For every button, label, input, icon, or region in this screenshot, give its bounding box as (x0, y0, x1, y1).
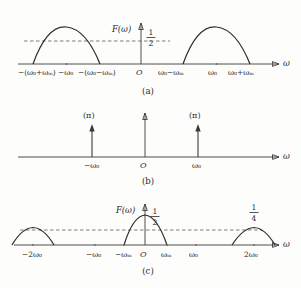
panel-a-amplitude-fraction: 1 2 (147, 28, 156, 48)
panel-c-function-label: F(ω) (115, 205, 135, 215)
panel-b-impulse-negative (89, 124, 94, 157)
panel-a-lobe-negative (33, 27, 100, 64)
panel-b-caption: (b) (142, 176, 154, 186)
panel-c-tick-neg-w0 (94, 244, 96, 246)
panel-b: (π) (π) −ω₀ O ω₀ ω (b) (0, 100, 301, 192)
panel-a-label-origin: O (136, 68, 143, 77)
panel-a-tick-neg-w0 (66, 63, 68, 65)
panel-c: F(ω) ω 1 2 1 4 −2ω₀ −ω₀ −ωₘ O ωₘ ω₀ 2ω₀ (0, 192, 301, 288)
panel-a-omega-axis-label: ω (283, 58, 290, 68)
panel-b-y-axis (143, 113, 148, 157)
panel-c-label-pos-w0: ω₀ (189, 250, 198, 259)
panel-b-weight-label-positive: (π) (189, 111, 201, 120)
panel-c-tick-pos-2w0 (253, 244, 255, 246)
panel-a-function-label: F(ω) (111, 24, 131, 34)
panel-a-x-axis (18, 62, 279, 67)
panel-b-weight-label-negative: (π) (83, 111, 95, 120)
panel-a-tick-pos-w0 (216, 63, 218, 65)
panel-a-caption: (a) (142, 86, 154, 96)
panel-b-x-axis (18, 155, 279, 160)
panel-b-omega-axis-label: ω (283, 151, 290, 161)
panel-c-amplitude-fraction-quarter: 1 4 (250, 203, 259, 223)
panel-c-label-neg-wm: −ωₘ (115, 250, 132, 259)
panel-a-y-axis (139, 23, 144, 64)
panel-c-label-pos-wm: ωₘ (161, 250, 172, 259)
signal-spectrum-figure: F(ω) ω 1 2 −(ω₀+ωₘ) −ω₀ −(ω₀−ωₘ) O ω₀−ωₘ… (0, 0, 301, 288)
panel-c-y-axis (143, 204, 148, 245)
panel-c-label-pos-2w0: 2ω₀ (244, 250, 258, 259)
panel-a-label-neg-diff: −(ω₀−ωₘ) (78, 68, 116, 77)
panel-c-caption: (c) (142, 266, 154, 276)
panel-b-label-neg-w0: −ω₀ (84, 161, 99, 170)
panel-a-label-pos-diff: ω₀−ωₘ (158, 68, 184, 77)
panel-b-label-pos-w0: ω₀ (192, 161, 201, 170)
panel-c-fraction-half-denominator: 2 (153, 218, 158, 227)
panel-c-tick-pos-wm (166, 244, 168, 246)
panel-c-amplitude-fraction-half: 1 2 (151, 207, 160, 227)
panel-c-tick-neg-wm (123, 244, 125, 246)
panel-a-fraction-denominator: 2 (149, 39, 154, 48)
panel-a-label-pos-sum: ω₀+ωₘ (228, 68, 254, 77)
panel-c-tick-neg-2w0 (32, 244, 34, 246)
panel-c-label-neg-w0: −ω₀ (86, 250, 101, 259)
panel-c-fraction-half-numerator: 1 (153, 207, 158, 216)
panel-c-tick-pos-w0 (195, 244, 197, 246)
panel-a-lobe-positive (183, 27, 250, 64)
panel-c-omega-axis-label: ω (283, 239, 290, 249)
panel-c-label-neg-2w0: −2ω₀ (22, 250, 42, 259)
panel-c-label-origin: O (140, 250, 147, 259)
panel-a: F(ω) ω 1 2 −(ω₀+ωₘ) −ω₀ −(ω₀−ωₘ) O ω₀−ωₘ… (0, 8, 301, 100)
panel-a-label-neg-sum: −(ω₀+ωₘ) (18, 68, 56, 77)
panel-b-label-origin: O (140, 161, 147, 170)
panel-c-fraction-quarter-denominator: 4 (252, 214, 257, 223)
panel-a-fraction-numerator: 1 (149, 28, 154, 37)
panel-a-label-neg-w0: −ω₀ (58, 68, 73, 77)
panel-c-fraction-quarter-numerator: 1 (252, 203, 257, 212)
panel-a-label-pos-w0: ω₀ (208, 68, 217, 77)
panel-b-impulse-positive (195, 124, 200, 157)
